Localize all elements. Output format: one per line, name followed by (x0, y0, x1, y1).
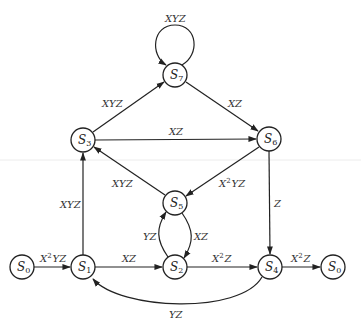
edge-s7-s6 (186, 82, 258, 131)
node-s1: S1 (71, 255, 95, 279)
node-s0-left: S0 (10, 255, 34, 279)
label-s0-s1: X2YZ (39, 252, 67, 264)
edge-s2-s5 (159, 212, 168, 257)
label-s6-s4: Z (273, 198, 282, 209)
edge-s3-s6 (95, 139, 256, 140)
edge-s6-s4 (269, 151, 270, 254)
edge-s5-s2 (182, 213, 191, 258)
edge-s4-s1 (93, 277, 262, 304)
label-s5-s2: XZ (193, 231, 209, 242)
label-s6-s5: X2YZ (218, 177, 246, 189)
label-s1-s2: XZ (121, 253, 137, 264)
label-s7-s6: XZ (227, 98, 243, 109)
label-s1-s3: XYZ (59, 199, 82, 210)
node-s0-right: S0 (321, 255, 345, 279)
node-s5: S5 (163, 191, 187, 215)
state-diagram: S7 S3 S6 S5 S0 S1 S2 S4 S0 XYZ XYZ XZ XZ… (0, 0, 361, 330)
node-s3: S3 (71, 128, 95, 152)
label-s3-s7: XYZ (101, 98, 124, 109)
edge-s7-self-loop (156, 25, 194, 65)
label-s2-s5: YZ (143, 231, 158, 242)
node-s7: S7 (163, 63, 187, 87)
label-s2-s4: X2Z (211, 252, 233, 264)
node-s6: S6 (257, 127, 281, 151)
label-s3-s6: XZ (168, 126, 184, 137)
label-s7-loop: XYZ (164, 13, 187, 24)
label-s4-s1: YZ (169, 309, 184, 320)
node-s2: S2 (163, 255, 187, 279)
label-s4-s0: X2Z (290, 252, 312, 264)
label-s5-s3: XYZ (111, 178, 134, 189)
node-s4: S4 (258, 255, 282, 279)
